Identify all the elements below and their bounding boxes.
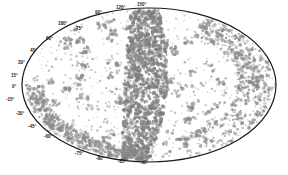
- source-point: [106, 106, 108, 108]
- source-point: [26, 84, 28, 86]
- source-point: [35, 105, 37, 107]
- source-point: [124, 154, 125, 155]
- source-point: [207, 18, 208, 19]
- source-point: [159, 159, 161, 161]
- source-point: [252, 111, 254, 113]
- source-point: [155, 72, 158, 75]
- source-point: [137, 66, 139, 68]
- source-point: [194, 103, 196, 105]
- source-point: [212, 144, 216, 148]
- source-point: [54, 113, 56, 115]
- source-point: [210, 130, 212, 132]
- source-point: [154, 69, 155, 70]
- source-point: [168, 120, 169, 121]
- source-point: [156, 51, 158, 53]
- source-point: [145, 140, 147, 142]
- source-point: [216, 47, 217, 48]
- source-point: [114, 154, 116, 156]
- source-point: [114, 87, 116, 89]
- source-point: [221, 90, 223, 92]
- source-point: [143, 86, 145, 88]
- source-point: [114, 150, 115, 151]
- source-point: [207, 125, 208, 126]
- source-point: [157, 111, 158, 112]
- source-point: [60, 100, 62, 102]
- source-point: [263, 102, 266, 105]
- source-point: [203, 140, 206, 143]
- source-point: [209, 26, 211, 28]
- source-point: [228, 133, 230, 135]
- source-point: [126, 100, 127, 101]
- source-point: [182, 142, 185, 145]
- source-point: [151, 65, 153, 67]
- source-point: [266, 79, 267, 80]
- source-point: [242, 129, 243, 130]
- source-point: [61, 119, 63, 121]
- source-point: [235, 38, 237, 40]
- source-point: [127, 115, 129, 117]
- source-point: [133, 142, 135, 144]
- source-point: [153, 96, 156, 99]
- source-point: [163, 76, 164, 77]
- source-point: [157, 109, 160, 112]
- source-point: [190, 41, 193, 44]
- source-point: [172, 52, 173, 53]
- source-point: [223, 123, 225, 125]
- source-point: [204, 112, 208, 116]
- source-point: [86, 53, 87, 54]
- source-point: [148, 87, 151, 90]
- dec-label: -30°: [16, 111, 25, 116]
- source-point: [146, 23, 147, 24]
- source-point: [132, 85, 135, 88]
- source-point: [142, 93, 144, 95]
- source-point: [45, 118, 47, 120]
- source-point: [225, 77, 228, 80]
- source-point: [168, 138, 170, 140]
- source-point: [105, 129, 108, 132]
- source-point: [195, 118, 197, 120]
- source-point: [71, 141, 74, 144]
- source-point: [151, 120, 153, 122]
- source-point: [129, 104, 130, 105]
- source-point: [132, 66, 133, 67]
- source-point: [51, 105, 54, 108]
- source-point: [64, 43, 66, 45]
- source-point: [147, 142, 148, 143]
- source-point: [197, 143, 199, 145]
- source-point: [148, 10, 152, 14]
- source-point: [97, 100, 99, 102]
- source-point: [254, 96, 257, 99]
- source-point: [222, 132, 225, 135]
- source-point: [165, 36, 166, 37]
- source-point: [150, 31, 154, 35]
- source-point: [206, 124, 208, 126]
- source-point: [244, 102, 247, 105]
- source-point: [214, 117, 216, 119]
- source-point: [148, 60, 151, 63]
- source-point: [89, 50, 92, 53]
- source-point: [156, 138, 157, 139]
- source-point: [129, 142, 132, 145]
- source-point: [174, 74, 175, 75]
- source-point: [158, 68, 160, 70]
- source-point: [258, 49, 261, 52]
- source-point: [135, 81, 136, 82]
- source-point: [231, 94, 232, 95]
- source-point: [206, 110, 208, 112]
- source-point: [141, 37, 143, 39]
- source-point: [185, 136, 186, 137]
- source-point: [184, 20, 185, 21]
- source-point: [218, 38, 221, 41]
- source-point: [200, 143, 202, 145]
- dec-label: 75°: [76, 26, 83, 31]
- source-point: [86, 66, 88, 68]
- source-point: [240, 75, 242, 77]
- source-point: [80, 43, 81, 44]
- source-point: [41, 96, 43, 98]
- source-point: [90, 105, 91, 106]
- source-point: [58, 49, 59, 50]
- source-point: [79, 140, 83, 144]
- source-point: [105, 60, 106, 61]
- source-point: [65, 93, 66, 94]
- source-point: [108, 61, 110, 63]
